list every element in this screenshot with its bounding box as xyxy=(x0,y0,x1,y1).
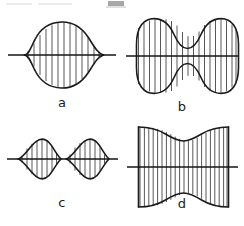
panel-label-b: b xyxy=(124,100,240,114)
panel-label-c: c xyxy=(4,196,120,210)
crop-artifact-mid xyxy=(38,3,72,5)
figure-root: a xyxy=(0,0,244,226)
crop-artifact-underline xyxy=(106,6,126,8)
panel-b-plot xyxy=(124,12,240,100)
panel-a-plot xyxy=(4,14,120,96)
crop-artifact-left xyxy=(6,3,32,5)
panel-c-plot xyxy=(4,128,120,190)
panel-label-a: a xyxy=(4,96,120,110)
panel-b xyxy=(124,12,240,100)
panel-label-d: d xyxy=(124,197,240,211)
panel-c xyxy=(4,128,120,190)
panel-a xyxy=(4,14,120,96)
